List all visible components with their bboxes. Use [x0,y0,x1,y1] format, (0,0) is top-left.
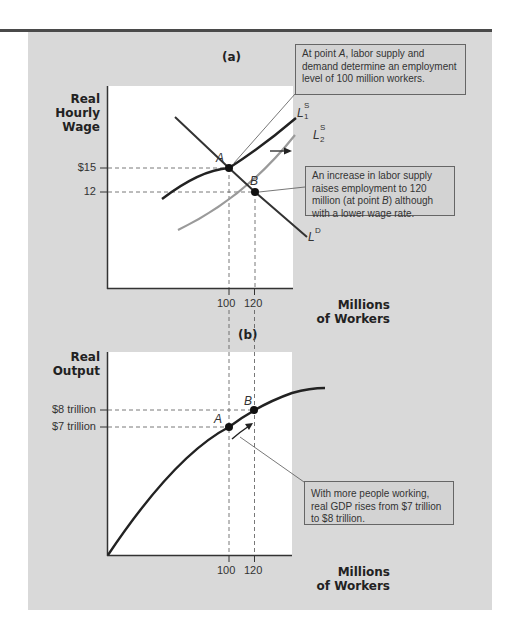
svg-text:S: S [320,123,325,132]
callout-gdp-rise: With more people working, real GDP rises… [304,481,454,525]
svg-text:1: 1 [304,112,309,121]
callout-b-leader [259,187,305,192]
svg-text:2: 2 [320,135,325,144]
point-a-label: A [215,151,224,165]
callout-point-a: At point A, labor supply and demand dete… [295,44,466,95]
svg-text:L: L [297,106,304,120]
callout-emphasis: B [382,195,389,206]
svg-text:L: L [313,128,320,142]
callout-point-b: An increase in labor supply raises emplo… [305,166,455,216]
callout-c-leader [240,437,304,482]
svg-text:L: L [308,230,315,244]
svg-text:S: S [304,101,309,110]
point-b-marker [251,188,259,196]
callout-text: At point [302,48,339,59]
ls1-label: L S 1 [297,101,309,121]
panel-a-axes [100,86,293,295]
labor-supply-2-curve [178,135,295,230]
svg-text:D: D [315,226,321,235]
panel-b-guides [108,310,255,555]
point-a-marker [225,164,233,172]
panel-b-axes [100,352,292,562]
shift-right-arrow-icon [270,148,292,155]
movement-arrow-icon [232,423,253,439]
point-b-label-b: B [244,394,252,408]
point-b-label: B [250,174,258,188]
ls2-label: L S 2 [313,123,325,144]
ld-label: L D [308,226,321,244]
chart-graphics: A B L S 1 L S 2 L D A B [0,0,514,638]
point-a-label-b: A [213,412,222,426]
point-a-marker-b [225,423,233,431]
